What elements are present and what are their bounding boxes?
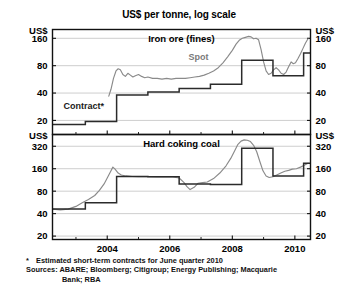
y-tick-label-left: 40 [37,208,48,219]
y-axis-unit-left: US$ [29,25,48,36]
y-tick-label-left: 160 [32,163,48,174]
chart-plot-area: 202040408080160160US$US$Iron ore (fines)… [0,0,358,298]
series-line-contract [53,148,311,209]
y-tick-label-right: 160 [316,163,332,174]
series-line-contract [53,53,311,124]
panel-frame [53,135,311,240]
y-axis-unit-left: US$ [29,130,48,141]
y-tick-label-left: 80 [37,60,48,71]
y-tick-label-left: 20 [37,115,48,126]
y-tick-label-right: 20 [316,230,327,241]
x-tick-label: 2004 [97,243,119,254]
chart-figure: US$ per tonne, log scale 202040408080160… [0,0,358,298]
sources-line-2-text: Bank; RBA [62,275,101,284]
y-tick-label-right: 40 [316,87,327,98]
y-tick-label-right: 20 [316,115,327,126]
series-label-spot: Spot [189,52,209,62]
y-tick-label-right: 320 [316,141,332,152]
y-tick-label-left: 20 [37,230,48,241]
chart-footnotes: *Estimated short-term contracts for June… [26,256,352,284]
y-tick-label-left: 80 [37,186,48,197]
series-line-spot [53,140,309,210]
panel-title: Hard coking coal [143,138,220,149]
footnote-marker: * [26,256,36,265]
x-tick-label: 2008 [222,243,243,254]
series-label-contract: Contract* [63,101,104,111]
x-tick-label: 2010 [284,243,305,254]
sources-line-1: Sources: ABARE; Bloomberg; Citigroup; En… [26,265,352,274]
footnote-estimated: *Estimated short-term contracts for June… [26,256,352,265]
series-line-spot [109,36,308,96]
x-tick-label: 2006 [159,243,180,254]
sources-line-2: Bank; RBA [26,275,352,284]
panel-title: Iron ore (fines) [148,33,215,44]
y-tick-label-left: 320 [32,141,48,152]
footnote-text: Estimated short-term contracts for June … [36,256,223,265]
panel-frame [53,30,311,135]
y-tick-label-left: 40 [37,87,48,98]
y-axis-unit-right: US$ [316,25,335,36]
y-axis-unit-right: US$ [316,130,335,141]
y-tick-label-right: 40 [316,208,327,219]
y-tick-label-right: 80 [316,60,327,71]
y-tick-label-right: 80 [316,186,327,197]
